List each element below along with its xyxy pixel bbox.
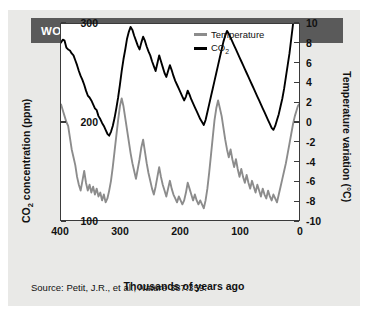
legend-swatch-temperature xyxy=(194,33,207,36)
source-citation-number: 387:359. xyxy=(170,282,207,293)
y-axis-right-tick-label: -8 xyxy=(306,195,315,207)
y-axis-right-title: Temperature variation (°C) xyxy=(341,71,353,202)
y-axis-left-tickmark xyxy=(61,121,66,122)
y-axis-right-tick-label: -10 xyxy=(306,215,321,227)
y-axis-right-tick-label: -4 xyxy=(306,156,315,168)
temperature-line xyxy=(61,98,299,208)
chart-card: WORLD TEMPERATURE CHANGE CO2 concentrati… xyxy=(8,10,360,306)
y-axis-left-tick-label: 300 xyxy=(80,17,98,29)
y-axis-right-tick-label: 0 xyxy=(306,116,312,128)
legend-swatch-co2 xyxy=(194,47,207,50)
y-axis-right-tickmark xyxy=(294,62,299,63)
y-axis-right-tickmark xyxy=(294,201,299,202)
legend-item-temperature: Temperature xyxy=(194,28,264,41)
x-axis-tick-label: 0 xyxy=(297,225,303,237)
chart-legend: Temperature CO2 xyxy=(194,28,264,56)
y-axis-right-tick-label: 2 xyxy=(306,96,312,108)
y-axis-right-tick-label: 10 xyxy=(306,17,318,29)
y-axis-right-tickmark xyxy=(294,181,299,182)
y-axis-right-tickmark xyxy=(294,82,299,83)
y-axis-right-tickmark xyxy=(294,121,299,122)
y-axis-right-tickmark xyxy=(294,220,299,221)
y-axis-right-tickmark xyxy=(294,22,299,23)
y-axis-right-tickmark xyxy=(294,42,299,43)
legend-label-co2: CO2 xyxy=(211,42,229,55)
legend-item-co2: CO2 xyxy=(194,42,264,55)
y-axis-left-tickmark xyxy=(61,220,66,221)
legend-label-temperature: Temperature xyxy=(211,29,264,40)
y-axis-right-tick-label: 8 xyxy=(306,37,312,49)
x-axis-tick-label: 200 xyxy=(171,225,189,237)
y-axis-right-tick-label: 6 xyxy=(306,57,312,69)
y-axis-right-tick-label: 4 xyxy=(306,76,312,88)
y-axis-right-tick-label: -2 xyxy=(306,136,315,148)
y-axis-left-tick-label: 200 xyxy=(80,116,98,128)
x-axis-tick-label: 100 xyxy=(231,225,249,237)
y-axis-right-tickmark xyxy=(294,161,299,162)
y-axis-right-tick-label: -6 xyxy=(306,175,315,187)
x-axis-tick-label: 300 xyxy=(111,225,129,237)
y-axis-right-tickmark xyxy=(294,141,299,142)
x-axis-tick-label: 400 xyxy=(51,225,69,237)
source-citation: Source: Petit, J.R., et al., Nature 387:… xyxy=(31,282,207,293)
source-journal: Nature xyxy=(139,282,168,293)
y-axis-right-tickmark xyxy=(294,102,299,103)
y-axis-left-tick-label: 100 xyxy=(80,215,98,227)
y-axis-left-tickmark xyxy=(61,22,66,23)
source-prefix: Source: Petit, J.R., et al., xyxy=(31,282,136,293)
y-axis-left-title: CO2 concentration (ppm) xyxy=(20,99,35,223)
